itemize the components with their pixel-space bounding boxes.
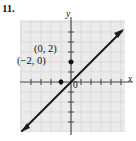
y-axis-label: y: [66, 9, 70, 19]
point-label-y-intercept: (0, 2): [34, 43, 57, 54]
grid-lines: [20, 20, 125, 132]
point-y-intercept: [69, 60, 74, 65]
x-axis-label: x: [128, 74, 132, 84]
point-x-intercept: [59, 80, 64, 85]
coordinate-graph: [0, 0, 136, 141]
origin-label: 0: [73, 80, 78, 90]
figure-screenshot: 11.: [0, 0, 136, 141]
point-label-x-intercept: (−2, 0): [17, 55, 46, 66]
